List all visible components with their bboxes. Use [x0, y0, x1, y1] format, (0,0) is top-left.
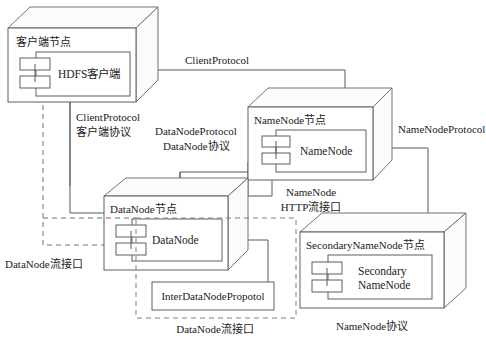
component-hdfs-client-label: HDFS客户端 [58, 67, 120, 80]
node-namenode-label: NameNode节点 [254, 114, 326, 126]
hdfs-deployment-diagram: 客户端节点 HDFS客户端 NameNode节点 NameNode DataNo… [0, 0, 486, 340]
component-secondary-namenode [312, 255, 432, 299]
inter-datanode-protocol-label: InterDataNodePropotol [161, 290, 264, 302]
node-client-label: 客户端节点 [16, 35, 71, 48]
label-namenode-http-line1: NameNode [286, 186, 336, 198]
label-namenode-protocol: NameNodeProtocol [398, 123, 485, 135]
label-datanode-protocol-line2: DataNode协议 [163, 139, 230, 152]
label-datanode-protocol-line1: DataNodeProtocol [155, 125, 237, 137]
component-secondary-namenode-label-line2: NameNode [358, 279, 410, 291]
label-client-protocol-line2: 客户端协议 [76, 125, 131, 138]
label-client-protocol-top: ClientProtocol [185, 54, 249, 66]
label-datanode-stream-bottom: DataNode流接口 [176, 322, 254, 335]
node-datanode-label: DataNode节点 [110, 203, 177, 215]
component-namenode-label: NameNode [300, 145, 352, 157]
component-datanode-label: DataNode [152, 234, 199, 246]
label-datanode-stream-left: DataNode流接口 [5, 257, 83, 270]
label-client-protocol-line1: ClientProtocol [76, 111, 140, 123]
component-secondary-namenode-label-line1: Secondary [358, 265, 407, 278]
label-namenode-http-line2: HTTP流接口 [281, 200, 342, 213]
label-namenode-protocol-cn: NameNode协议 [336, 319, 408, 332]
node-secondary-namenode-label: SecondaryNameNode节点 [306, 239, 425, 251]
